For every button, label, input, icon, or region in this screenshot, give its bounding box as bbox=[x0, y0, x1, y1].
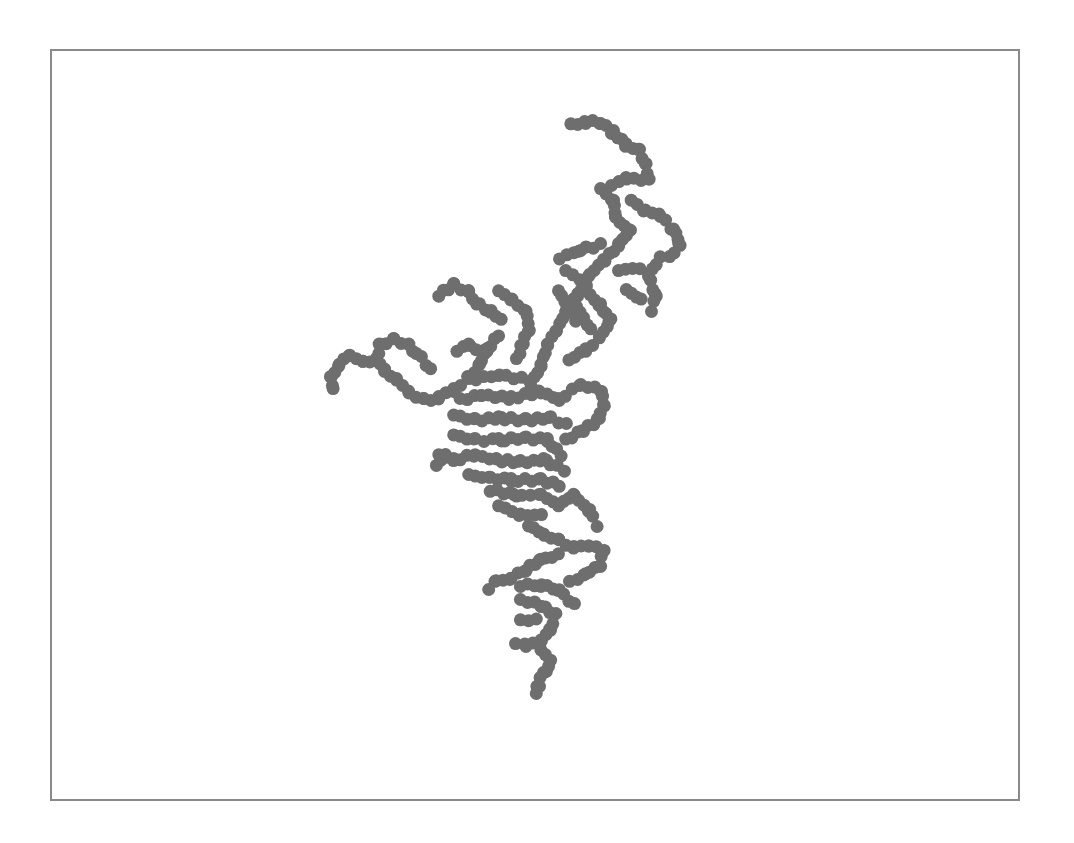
aggregation-cluster bbox=[0, 0, 1074, 843]
particle bbox=[553, 252, 566, 265]
particle bbox=[510, 352, 523, 365]
particle bbox=[620, 283, 633, 296]
particle bbox=[509, 637, 522, 650]
particle bbox=[568, 597, 581, 610]
particle bbox=[584, 322, 597, 335]
particle bbox=[495, 313, 508, 326]
particle bbox=[530, 613, 543, 626]
particle bbox=[560, 417, 573, 430]
particle bbox=[477, 344, 490, 357]
particle bbox=[535, 508, 548, 521]
particle bbox=[633, 262, 646, 275]
particle bbox=[482, 583, 495, 596]
particle bbox=[530, 687, 543, 700]
particle-group bbox=[324, 114, 687, 700]
particle bbox=[559, 433, 572, 446]
particle bbox=[424, 362, 437, 375]
particle bbox=[569, 315, 582, 328]
particle bbox=[562, 353, 575, 366]
particle bbox=[553, 480, 566, 493]
particle bbox=[645, 305, 658, 318]
particle bbox=[523, 375, 536, 388]
particle bbox=[439, 448, 452, 461]
particle bbox=[558, 465, 571, 478]
particle bbox=[327, 382, 340, 395]
particle bbox=[563, 575, 576, 588]
particle bbox=[591, 520, 604, 533]
